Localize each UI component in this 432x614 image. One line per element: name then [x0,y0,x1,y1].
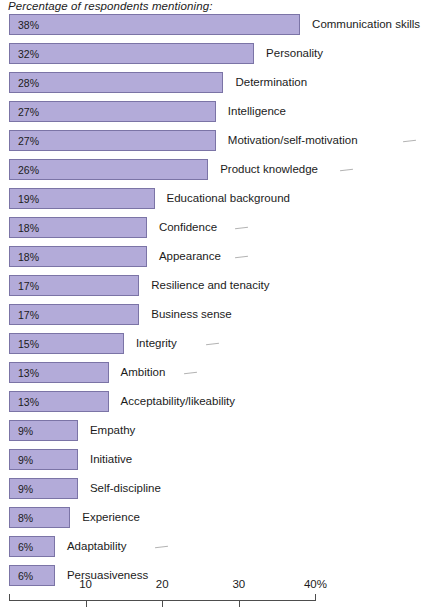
bar: 17% [9,304,139,325]
bar-value-label: 6% [18,541,33,552]
bar: 19% [9,188,155,209]
bar-value-label: 28% [18,77,39,88]
bar-row: 26%Product knowledge [0,159,432,181]
axis-tick [162,600,163,607]
bar-category-label: Determination [235,77,307,89]
bar: 9% [9,420,78,441]
bar-row: 18%Appearance [0,246,432,268]
bar-category-label: Confidence [159,222,217,234]
axis-tick-label: 10 [79,579,92,591]
bar-value-label: 17% [18,280,39,291]
bar: 28% [9,72,223,93]
bar-category-label: Initiative [90,454,132,466]
bar-category-label: Intelligence [228,106,286,118]
bar-value-label: 26% [18,164,39,175]
bar-value-label: 15% [18,338,39,349]
plot-area: 38%Communication skills32%Personality28%… [0,14,432,574]
bar-row: 17%Business sense [0,304,432,326]
bar-category-label: Communication skills [312,19,420,31]
axis-tick [239,600,240,607]
bar-category-label: Integrity [136,338,177,350]
bar: 9% [9,449,78,470]
bar-category-label: Personality [266,48,323,60]
bar-category-label: Appearance [159,251,221,263]
bar-category-label: Self-discipline [90,483,161,495]
bar-row: 8%Experience [0,507,432,529]
bar-value-label: 13% [18,396,39,407]
bar-chart: Percentage of respondents mentioning: 38… [0,0,432,614]
bar: 13% [9,391,109,412]
scan-artifact-mark [206,343,219,346]
bar-row: 19%Educational background [0,188,432,210]
scan-artifact-mark [184,372,197,375]
bar-row: 13%Acceptability/likeability [0,391,432,413]
bar-category-label: Adaptability [67,541,126,553]
bar-value-label: 18% [18,251,39,262]
scan-artifact-mark [155,546,168,549]
bar-category-label: Acceptability/likeability [121,396,235,408]
bar-row: 17%Resilience and tenacity [0,275,432,297]
axis-tick [86,600,87,607]
axis-tick-label: 20 [156,579,169,591]
bar-category-label: Motivation/self-motivation [228,135,358,147]
bar-value-label: 9% [18,425,33,436]
x-axis: 10203040% [0,574,432,614]
bar-category-label: Educational background [167,193,290,205]
axis-tick-label: 30 [232,579,245,591]
bar-value-label: 9% [18,454,33,465]
bar: 26% [9,159,208,180]
chart-title: Percentage of respondents mentioning: [8,0,212,12]
bar-value-label: 32% [18,48,39,59]
bar-value-label: 27% [18,135,39,146]
bar-category-label: Ambition [121,367,166,379]
bar: 6% [9,536,55,557]
bar-row: 28%Determination [0,72,432,94]
bar-row: 38%Communication skills [0,14,432,36]
bar-value-label: 19% [18,193,39,204]
bar: 18% [9,217,147,238]
bar-row: 9%Empathy [0,420,432,442]
bar-category-label: Resilience and tenacity [151,280,269,292]
bar: 8% [9,507,70,528]
bar-value-label: 17% [18,309,39,320]
bar: 18% [9,246,147,267]
bar-value-label: 13% [18,367,39,378]
bar-value-label: 8% [18,512,33,523]
bar-row: 32%Personality [0,43,432,65]
bar-category-label: Experience [82,512,140,524]
bar: 15% [9,333,124,354]
bar-value-label: 38% [18,19,39,30]
bar: 38% [9,14,300,35]
bar: 32% [9,43,254,64]
bar-row: 9%Initiative [0,449,432,471]
bar-row: 13%Ambition [0,362,432,384]
scan-artifact-mark [340,169,353,172]
bar-row: 9%Self-discipline [0,478,432,500]
bar-row: 27%Intelligence [0,101,432,123]
scan-artifact-mark [403,140,416,143]
axis-start-cap [9,594,10,601]
axis-end-cap [315,594,316,601]
bar: 27% [9,101,216,122]
bar-value-label: 9% [18,483,33,494]
bar: 13% [9,362,109,383]
bar-category-label: Product knowledge [220,164,318,176]
axis-tick-label: 40% [304,579,327,591]
scan-artifact-mark [235,227,248,230]
bar-value-label: 27% [18,106,39,117]
bar-row: 18%Confidence [0,217,432,239]
bar-category-label: Business sense [151,309,232,321]
bar-value-label: 18% [18,222,39,233]
bar-row: 6%Adaptability [0,536,432,558]
bar: 27% [9,130,216,151]
bar-category-label: Empathy [90,425,135,437]
bar-row: 27%Motivation/self-motivation [0,130,432,152]
bar: 9% [9,478,78,499]
bar: 17% [9,275,139,296]
bar-row: 15%Integrity [0,333,432,355]
scan-artifact-mark [235,256,248,259]
